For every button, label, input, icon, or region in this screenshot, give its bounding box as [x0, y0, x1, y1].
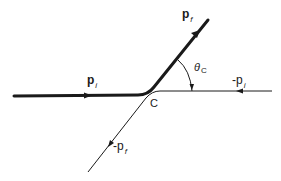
- angle-arc-arrow: [190, 84, 195, 90]
- label-neg-p-f-sub: f: [125, 147, 127, 156]
- label-p-i: pi: [87, 74, 97, 86]
- label-vertex-c: C: [150, 98, 158, 109]
- arrow-p-i: [84, 93, 92, 99]
- label-theta-main: θ: [194, 61, 200, 73]
- label-theta-sub: C: [201, 66, 207, 75]
- label-theta-c: θC: [194, 62, 207, 73]
- label-p-i-sub: i: [95, 81, 97, 90]
- angle-arc: [178, 60, 192, 91]
- label-neg-p-f-main: -p: [113, 139, 124, 153]
- thin-momentum-path: [88, 91, 272, 172]
- label-p-f: pf: [182, 8, 193, 20]
- thick-momentum-path: [14, 20, 208, 96]
- label-p-i-main: p: [87, 73, 94, 87]
- label-p-f-sub: f: [190, 15, 192, 24]
- label-neg-p-i: -pi: [232, 74, 245, 86]
- label-neg-p-f: -pf: [113, 140, 127, 152]
- label-p-f-main: p: [182, 7, 189, 21]
- label-neg-p-i-main: -p: [232, 73, 243, 87]
- scattering-diagram: [0, 0, 281, 181]
- arrow-neg-p-i: [236, 89, 243, 94]
